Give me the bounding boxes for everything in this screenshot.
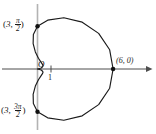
label-bottom-fraction-denominator: 2	[15, 110, 21, 119]
label-point-top: (3, π2)	[3, 17, 24, 34]
label-bottom-fraction-numerator: 3π	[13, 103, 23, 111]
point-marker-right	[111, 67, 115, 71]
label-point-right: (6, 0)	[116, 57, 133, 65]
origin-label: O	[38, 60, 45, 69]
polar-cardioid-figure: (3, π2) (3, 3π2) (6, 0) O 1	[0, 0, 156, 134]
point-marker-bottom	[35, 110, 39, 114]
label-bottom-fraction: 3π2	[13, 103, 23, 120]
label-point-bottom: (3, 3π2)	[1, 103, 26, 120]
x-axis-tick-label-1: 1	[48, 74, 52, 82]
label-top-fraction-denominator: 2	[15, 24, 21, 33]
label-top-close-paren: )	[21, 19, 24, 29]
x-axis-arrowhead	[146, 66, 153, 72]
label-top-fraction-numerator: π	[15, 17, 21, 25]
point-marker-top	[35, 24, 39, 28]
label-top-fraction: π2	[15, 17, 21, 34]
label-bottom-close-paren: )	[23, 105, 26, 115]
